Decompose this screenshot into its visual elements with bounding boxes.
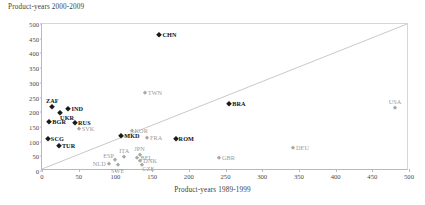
data-point-label: DEU bbox=[296, 145, 309, 151]
data-point-label: FRA bbox=[150, 135, 162, 141]
y-axis-tick-mark bbox=[40, 126, 43, 127]
x-axis-tick-mark bbox=[336, 169, 337, 172]
diamond-marker-icon bbox=[76, 127, 81, 132]
data-point-label: JPN bbox=[134, 146, 145, 152]
y-axis-tick-mark bbox=[40, 97, 43, 98]
diamond-marker-icon bbox=[122, 154, 127, 159]
data-point-label: GBR bbox=[222, 155, 235, 161]
data-point-zaf: ZAF bbox=[49, 104, 55, 110]
data-point-label: IND bbox=[71, 106, 83, 112]
data-point-gbr: GBR bbox=[216, 155, 222, 161]
data-point-deu: DEU bbox=[290, 145, 296, 151]
data-point-label: MKD bbox=[124, 133, 139, 139]
data-point-label: ROM bbox=[179, 136, 194, 142]
x-axis-tick-label: 400 bbox=[331, 173, 341, 180]
data-point-ukr: UKR bbox=[57, 110, 63, 116]
y-axis-title: Product-years 2000-2009 bbox=[8, 3, 84, 11]
data-point-label: ESP bbox=[103, 153, 114, 159]
x-axis-tick-label: 450 bbox=[367, 173, 377, 180]
data-point-usa: USA bbox=[392, 105, 398, 111]
plot-area: 0501001502002503003504004505000501001502… bbox=[41, 23, 408, 170]
data-point-label: CZE bbox=[142, 166, 154, 172]
x-axis-tick-mark bbox=[372, 169, 373, 172]
diamond-marker-icon bbox=[106, 161, 111, 166]
x-axis-tick-label: 50 bbox=[75, 173, 82, 180]
data-point-label: NLD bbox=[93, 160, 106, 166]
data-point-chn: CHN bbox=[156, 32, 162, 38]
data-point-tur: TUR bbox=[56, 143, 62, 149]
x-axis-tick-label: 500 bbox=[404, 173, 414, 180]
data-point-svk: SVK bbox=[76, 126, 82, 132]
diamond-marker-icon bbox=[49, 104, 55, 110]
data-point-mkd: MKD bbox=[118, 133, 124, 139]
data-point-rom: ROM bbox=[173, 136, 179, 142]
x-axis-tick-label: 150 bbox=[147, 173, 157, 180]
x-axis-tick-mark bbox=[189, 169, 190, 172]
x-axis-tick-label: 0 bbox=[40, 173, 43, 180]
diamond-marker-icon bbox=[216, 156, 221, 161]
diamond-marker-icon bbox=[291, 146, 296, 151]
data-point-bgr: BGR bbox=[46, 119, 52, 125]
data-point-cze: CZE bbox=[139, 162, 145, 168]
data-point-ita: ITA bbox=[121, 154, 127, 160]
data-point-label: SVK bbox=[82, 126, 95, 132]
data-point-bra: BRA bbox=[226, 101, 232, 107]
data-point-label: CHN bbox=[162, 32, 176, 38]
x-axis-tick-mark bbox=[409, 169, 410, 172]
x-axis-tick-mark bbox=[79, 169, 80, 172]
x-axis-tick-mark bbox=[299, 169, 300, 172]
x-axis-title: Product-years 1989-1999 bbox=[0, 186, 425, 194]
data-point-fra: FRA bbox=[144, 135, 150, 141]
x-axis-tick-mark bbox=[42, 169, 43, 172]
y-axis-tick-mark bbox=[40, 82, 43, 83]
scatter-chart-figure: Product-years 2000-2009 0501001502002503… bbox=[0, 0, 425, 205]
x-axis-tick-label: 250 bbox=[221, 173, 231, 180]
diamond-marker-icon bbox=[393, 105, 398, 110]
data-point-label: ZAF bbox=[46, 98, 59, 104]
x-axis-tick-label: 200 bbox=[184, 173, 194, 180]
data-point-label: TWN bbox=[148, 90, 162, 96]
data-point-label: BRA bbox=[232, 101, 245, 107]
data-point-label: DNK bbox=[143, 158, 157, 164]
x-axis-tick-mark bbox=[226, 169, 227, 172]
data-point-label: USA bbox=[389, 99, 402, 105]
data-point-scg: SCG bbox=[45, 136, 51, 142]
y-axis-tick-mark bbox=[40, 53, 43, 54]
diamond-marker-icon bbox=[145, 135, 150, 140]
data-point-label: ITA bbox=[119, 148, 129, 154]
diagonal-reference-line bbox=[42, 24, 407, 169]
y-axis-tick-mark bbox=[40, 141, 43, 142]
x-axis-tick-label: 100 bbox=[110, 173, 120, 180]
x-axis-tick-mark bbox=[262, 169, 263, 172]
data-point-ind: IND bbox=[65, 106, 71, 112]
data-point-label: BGR bbox=[52, 119, 66, 125]
x-axis-tick-label: 300 bbox=[257, 173, 267, 180]
y-axis-tick-mark bbox=[40, 156, 43, 157]
data-point-twn: TWN bbox=[142, 90, 148, 96]
y-axis-tick-mark bbox=[40, 68, 43, 69]
x-axis-tick-label: 350 bbox=[294, 173, 304, 180]
data-point-label: SWE bbox=[111, 168, 124, 174]
data-point-swe: SWE bbox=[115, 162, 121, 168]
diamond-marker-icon bbox=[142, 91, 147, 96]
data-point-label: TUR bbox=[62, 142, 75, 148]
y-axis-tick-mark bbox=[40, 24, 43, 25]
y-axis-tick-mark bbox=[40, 112, 43, 113]
y-axis-tick-mark bbox=[40, 38, 43, 39]
